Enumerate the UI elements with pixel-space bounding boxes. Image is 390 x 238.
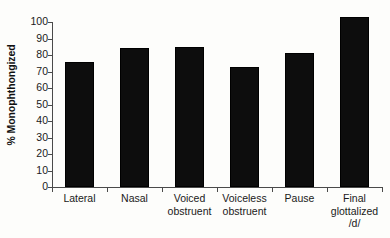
x-axis-category-label-line: Lateral (51, 192, 109, 205)
y-axis-tick-label: 90 (36, 32, 48, 45)
bar-series (52, 14, 382, 188)
y-axis-tick-label: 0 (42, 180, 48, 193)
x-axis-category-label-line: Final (326, 192, 384, 205)
y-axis-tick-label: 40 (36, 114, 48, 127)
x-axis-category-label: Nasal (106, 192, 164, 205)
y-axis-tick-label: 80 (36, 48, 48, 61)
y-axis-tick-label: 10 (36, 164, 48, 177)
y-axis-title: % Monophthongized (2, 0, 20, 190)
y-axis-tick-label: 100 (30, 15, 48, 28)
x-axis-category-label: Lateral (51, 192, 109, 205)
bar-slot (272, 14, 327, 187)
x-axis-labels: LateralNasalVoicedobstruentVoicelessobst… (52, 192, 382, 238)
bar (340, 17, 369, 187)
x-axis-category-label-line: obstruent (216, 205, 274, 218)
y-axis-tick-label: 30 (36, 131, 48, 144)
x-axis-category-label-line: Voiced (161, 192, 219, 205)
bar-slot (327, 14, 382, 187)
y-axis-tick-label: 50 (36, 98, 48, 111)
x-axis-category-label-line: glottalized (326, 205, 384, 218)
y-axis-tick-label: 70 (36, 65, 48, 78)
y-axis-title-text: % Monophthongized (5, 45, 17, 146)
x-axis-category-label-line: Voiceless (216, 192, 274, 205)
y-axis-tick-label: 20 (36, 147, 48, 160)
bar-chart-figure: % Monophthongized 1009080706050403020100… (0, 0, 390, 238)
x-axis-category-label-line: /d/ (326, 217, 384, 230)
bar (230, 67, 259, 187)
bar (65, 62, 94, 187)
x-axis-category-label: Voicedobstruent (161, 192, 219, 217)
x-axis-category-label-line: Pause (271, 192, 329, 205)
bar-slot (107, 14, 162, 187)
bar-slot (162, 14, 217, 187)
x-axis-category-label: Voicelessobstruent (216, 192, 274, 217)
x-axis-category-label: Finalglottalized/d/ (326, 192, 384, 230)
x-axis-category-label-line: obstruent (161, 205, 219, 218)
plot-area: 1009080706050403020100 (52, 14, 382, 188)
bar (175, 47, 204, 187)
bar (285, 53, 314, 187)
x-axis-category-label: Pause (271, 192, 329, 205)
bar-slot (52, 14, 107, 187)
x-axis-category-label-line: Nasal (106, 192, 164, 205)
y-axis-tick-label: 60 (36, 81, 48, 94)
bar (120, 48, 149, 187)
bar-slot (217, 14, 272, 187)
